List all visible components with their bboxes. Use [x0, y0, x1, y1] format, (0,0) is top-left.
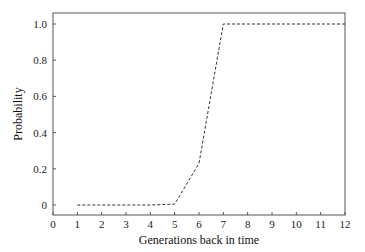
y-tick-label: 0.8	[33, 54, 47, 66]
plot-frame	[53, 13, 345, 215]
x-tick-label: 12	[340, 218, 351, 230]
x-tick-label: 0	[50, 218, 56, 230]
x-tick-label: 7	[221, 218, 227, 230]
x-tick-label: 6	[196, 218, 202, 230]
y-tick-label: 0	[42, 199, 48, 211]
chart: 0123456789101112 00.20.40.60.81.0 Genera…	[0, 0, 365, 252]
y-tick-label: 1.0	[33, 18, 47, 30]
x-tick-label: 5	[172, 218, 178, 230]
y-tick-label: 0.4	[33, 127, 47, 139]
x-tick-label: 8	[245, 218, 251, 230]
y-tick-label: 0.6	[33, 90, 47, 102]
x-tick-label: 3	[123, 218, 129, 230]
x-tick-label: 1	[75, 218, 81, 230]
x-tick-label: 9	[269, 218, 275, 230]
probability-line	[77, 24, 345, 205]
x-tick-label: 2	[99, 218, 105, 230]
x-axis-label: Generations back in time	[139, 233, 259, 247]
x-tick-label: 11	[315, 218, 326, 230]
y-tick-label: 0.2	[33, 163, 47, 175]
x-tick-label: 10	[291, 218, 303, 230]
x-tick-label: 4	[148, 218, 154, 230]
y-axis-label: Probability	[11, 87, 25, 140]
